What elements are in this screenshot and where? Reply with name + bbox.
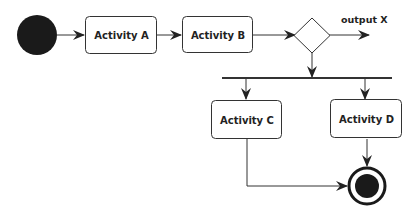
initial-node[interactable] xyxy=(17,15,57,55)
activity-d-label: Activity D xyxy=(331,100,402,138)
activity-c-label: Activity C xyxy=(212,101,282,139)
edge-activity-c-to-end xyxy=(247,139,347,186)
output-x-label: output X xyxy=(341,14,388,25)
activity-a-label: Activity A xyxy=(86,17,157,54)
decision-node[interactable] xyxy=(294,18,330,53)
final-node-inner xyxy=(355,174,379,198)
activity-b-label: Activity B xyxy=(183,17,253,53)
